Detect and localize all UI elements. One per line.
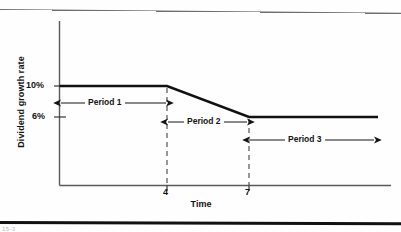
y-tick-label-6: 6% <box>32 111 45 121</box>
y-tick-label-10: 10% <box>26 80 44 90</box>
figure-caption-stub: 15-3 <box>2 226 48 231</box>
y-axis-label: Dividend growth rate <box>16 42 26 162</box>
figure-page: Dividend growth rate Time 10% 6% 4 7 Per… <box>0 0 401 232</box>
period-3-label: Period 3 <box>285 134 325 144</box>
x-tick-label-7: 7 <box>245 187 250 197</box>
x-tick-label-4: 4 <box>163 187 168 197</box>
period-2-label: Period 2 <box>184 116 224 126</box>
x-axis-label: Time <box>176 199 226 209</box>
period-1-label: Period 1 <box>85 97 125 107</box>
